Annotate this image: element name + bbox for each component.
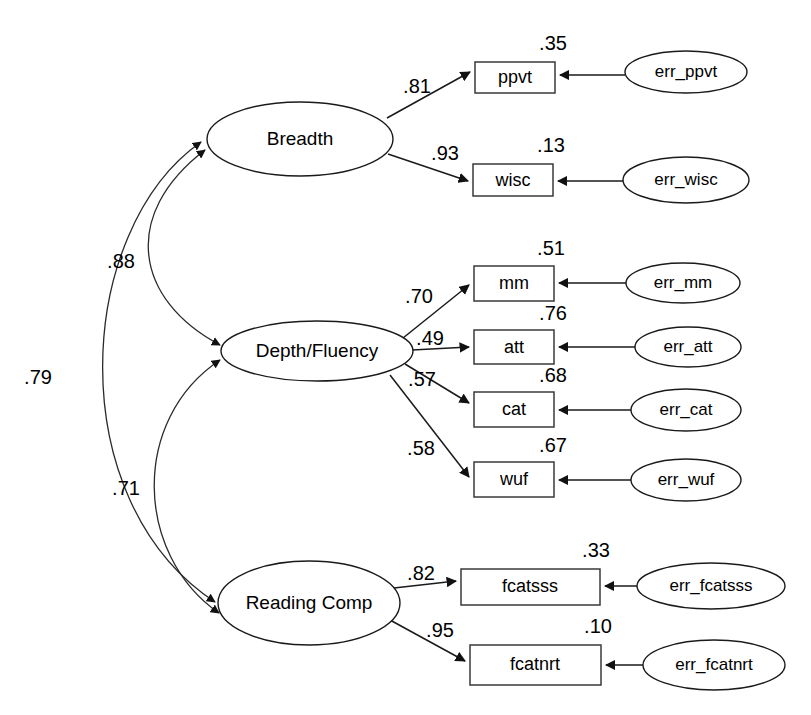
residual-label-mm: .51 — [537, 237, 565, 259]
observed-variable-fcatnrt[interactable]: fcatnrt — [470, 645, 601, 685]
depth-label: Depth/Fluency — [256, 340, 379, 361]
error-term-err-fcatsss[interactable]: err_fcatsss — [637, 563, 785, 609]
error-term-err-att[interactable]: err_att — [635, 327, 741, 367]
latent-factor-breadth[interactable]: Breadth — [207, 102, 393, 176]
observed-variable-fcatsss[interactable]: fcatsss — [461, 569, 600, 605]
loading-label-ppvt: .81 — [403, 75, 431, 97]
err-fcatsss-label: err_fcatsss — [669, 576, 752, 595]
residual-label-wuf: .67 — [539, 434, 567, 456]
loading-label-mm: .70 — [405, 285, 433, 307]
err-fcatnrt-label: err_fcatnrt — [675, 655, 753, 674]
ppvt-label: ppvt — [498, 67, 532, 87]
loading-labels: .81 .93 .70 .49 .57 .58 .82 .95 — [403, 75, 459, 641]
loading-label-att: .49 — [416, 327, 444, 349]
error-term-err-ppvt[interactable]: err_ppvt — [625, 51, 747, 93]
att-label: att — [504, 337, 524, 357]
breadth-label: Breadth — [267, 128, 334, 149]
loading-label-fcatnrt: .95 — [426, 619, 454, 641]
correlation-label-breadth-reading: .79 — [24, 366, 52, 388]
residual-label-wisc: .13 — [537, 134, 565, 156]
latent-factor-depth[interactable]: Depth/Fluency — [221, 321, 413, 381]
correlation-curves: .88 .79 .71 — [24, 142, 220, 613]
error-terms: err_ppvt err_wisc err_mm err_att err_cat… — [623, 51, 785, 690]
observed-variable-mm[interactable]: mm — [474, 266, 554, 301]
loading-label-cat: .57 — [408, 368, 436, 390]
err-att-label: err_att — [663, 337, 712, 356]
observed-variables: ppvt wisc mm att cat wuf fcatsss — [461, 62, 601, 685]
cat-label: cat — [502, 399, 526, 419]
loading-label-wisc: .93 — [431, 142, 459, 164]
residual-label-fcatnrt: .10 — [584, 615, 612, 637]
loading-label-wuf: .58 — [407, 437, 435, 459]
observed-variable-att[interactable]: att — [474, 330, 554, 364]
err-mm-label: err_mm — [654, 273, 713, 292]
fcatnrt-label: fcatnrt — [510, 654, 560, 674]
fcatsss-label: fcatsss — [502, 576, 558, 596]
reading-label: Reading Comp — [246, 592, 373, 613]
latent-factors: Breadth Depth/Fluency Reading Comp — [207, 102, 413, 645]
error-term-err-mm[interactable]: err_mm — [626, 263, 740, 303]
residual-label-att: .76 — [539, 302, 567, 324]
correlation-curve-breadth-reading — [103, 142, 215, 602]
diagram-canvas: .88 .79 .71 Breadth — [0, 0, 811, 715]
err-cat-label: err_cat — [660, 400, 713, 419]
observed-variable-wuf[interactable]: wuf — [474, 462, 554, 497]
wuf-label: wuf — [499, 469, 529, 489]
sem-path-diagram: .88 .79 .71 Breadth — [0, 0, 811, 715]
loading-path-depth-wuf — [390, 375, 469, 477]
correlation-curve-breadth-depth — [148, 150, 220, 345]
residual-label-cat: .68 — [539, 364, 567, 386]
error-term-err-wuf[interactable]: err_wuf — [631, 459, 741, 501]
observed-variable-cat[interactable]: cat — [474, 392, 554, 427]
error-term-err-cat[interactable]: err_cat — [631, 389, 741, 431]
latent-factor-reading[interactable]: Reading Comp — [218, 561, 400, 645]
correlation-curve-depth-reading — [154, 360, 220, 613]
err-wisc-label: err_wisc — [654, 170, 718, 189]
correlation-label-depth-reading: .71 — [112, 477, 140, 499]
observed-variable-wisc[interactable]: wisc — [473, 164, 553, 196]
mm-label: mm — [499, 273, 529, 293]
observed-variable-ppvt[interactable]: ppvt — [475, 62, 555, 93]
correlation-label-breadth-depth: .88 — [107, 250, 135, 272]
error-term-err-fcatnrt[interactable]: err_fcatnrt — [643, 640, 785, 690]
residual-label-fcatsss: .33 — [582, 539, 610, 561]
loading-label-fcatsss: .82 — [407, 562, 435, 584]
err-wuf-label: err_wuf — [658, 470, 715, 489]
error-term-err-wisc[interactable]: err_wisc — [623, 157, 749, 203]
residual-label-ppvt: .35 — [539, 32, 567, 54]
wisc-label: wisc — [495, 170, 531, 190]
err-ppvt-label: err_ppvt — [655, 62, 718, 81]
